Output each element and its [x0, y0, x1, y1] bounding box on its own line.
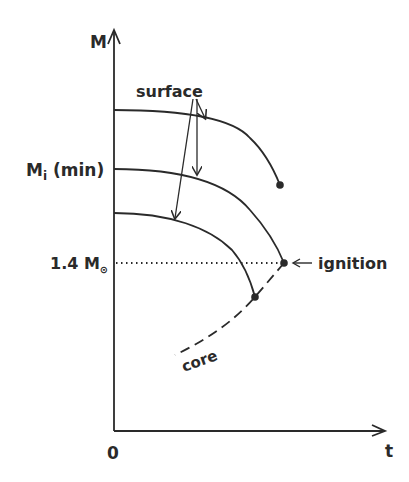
ignition-pointer — [293, 259, 312, 267]
ignition-label: ignition — [318, 254, 387, 273]
surface-label: surface — [136, 82, 203, 101]
endpoint-dot-top — [276, 181, 284, 189]
core-curve — [175, 263, 284, 355]
svg-text:1.4 M⊙: 1.4 M⊙ — [50, 254, 108, 275]
y-axis-label: M — [90, 32, 107, 52]
mi-min-label: Mi (min) — [26, 160, 104, 183]
origin-label: 0 — [107, 443, 119, 463]
y-axis — [108, 30, 120, 431]
chandrasekhar-mass-label: 1.4 M⊙ — [50, 254, 108, 275]
mass-evolution-diagram: M t 0 Mi (min) 1.4 M⊙ surface core ignit… — [0, 0, 409, 482]
surface-curve-bottom — [114, 213, 255, 297]
x-axis-label: t — [385, 441, 393, 461]
x-axis — [114, 425, 385, 436]
surface-curve-middle — [114, 169, 284, 263]
surface-arrow-bottom-icon — [175, 99, 193, 218]
svg-text:Mi (min): Mi (min) — [26, 160, 104, 183]
